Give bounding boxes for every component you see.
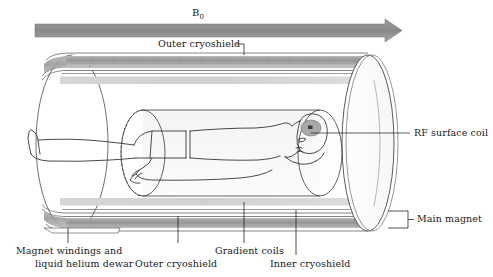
inner-cryoshield-label: Inner cryoshield	[270, 258, 351, 271]
magnet-windings-label-line2: liquid helium dewar	[35, 258, 133, 271]
main-magnet-label: Main magnet	[417, 213, 482, 226]
magnet-right-end-cap	[342, 55, 398, 231]
rf-surface-coil-patch	[301, 120, 321, 136]
b0-field-label: B0	[192, 7, 204, 24]
gradient-coils-label: Gradient coils	[215, 245, 284, 258]
outer-cryoshield-bottom-label: Outer cryoshield	[135, 258, 217, 271]
magnet-windings-label-line1: Magnet windings and	[16, 245, 122, 258]
outer-cryoshield-top-label: Outer cryoshield	[158, 38, 240, 51]
top-wall-layers	[42, 53, 370, 84]
rf-surface-coil-label: RF surface coil	[414, 127, 488, 140]
mri-diagram-figure: B0 Outer cryoshield RF surface coil Main…	[0, 0, 493, 277]
